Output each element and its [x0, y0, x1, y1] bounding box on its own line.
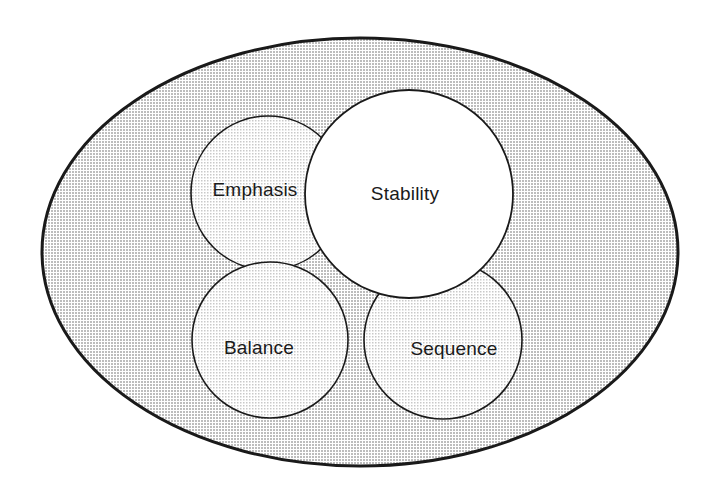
venn-diagram-canvas: Emphasis Balance Sequence Stability — [0, 0, 715, 492]
set-label-balance: Balance — [224, 337, 294, 358]
set-label-stability: Stability — [371, 183, 440, 204]
venn-diagram: Emphasis Balance Sequence Stability — [0, 0, 715, 492]
set-label-emphasis: Emphasis — [212, 179, 297, 200]
set-label-sequence: Sequence — [410, 338, 497, 359]
